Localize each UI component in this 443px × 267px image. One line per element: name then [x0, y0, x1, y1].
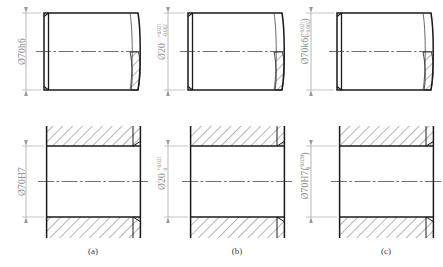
shaft-tolerance-upper-c: +0.021 [299, 20, 305, 35]
hatch-lower-c [339, 217, 434, 238]
shaft-tolerance-upper-b: +0.021 [156, 22, 162, 37]
shaft-dimension-label-b: Ø20 [157, 43, 167, 60]
svg-text:Ø70H7(: Ø70H7( [300, 167, 311, 199]
svg-text:Ø20: Ø20 [157, 173, 167, 190]
hatch-upper-c [339, 126, 434, 146]
hole-tolerance-lower-b: 0 [162, 168, 168, 171]
caption-c: (c) [381, 246, 391, 256]
hole-dimension-label-b: Ø20 [157, 173, 167, 190]
hole-dimension-label-c: Ø70H7( [300, 167, 311, 199]
shaft-tolerance-lower-b: -0.002 [162, 24, 168, 38]
hole-tolerance-upper-c: +0.030 [299, 154, 305, 169]
hole-tolerance-upper-b: +0.021 [156, 155, 162, 170]
shaft-dimension-group-c: Ø70k6( +0.021 +0.002 ) [299, 18, 311, 64]
shaft-dimension-label-a: Ø70h6 [17, 38, 27, 65]
hatch-lower-a [46, 217, 141, 238]
shaft-dimension-label-c: Ø70k6( [300, 34, 311, 64]
shaft-tolerance-lower-c: +0.002 [305, 20, 311, 35]
drawing-canvas: Ø70h6 [0, 0, 443, 267]
hatch-upper-b [190, 126, 285, 146]
caption-b: (b) [232, 246, 243, 256]
hatch-upper-a [46, 126, 141, 146]
hole-dimension-suffix-c: ) [300, 152, 311, 155]
hatch-lower-b [190, 217, 285, 238]
shaft-dimension-suffix-c: ) [300, 18, 311, 21]
technical-drawing-sheet: Ø70h6 [0, 0, 443, 267]
caption-a: (a) [88, 246, 98, 256]
hole-dimension-label-a: Ø70H7 [17, 167, 27, 196]
svg-text:Ø20: Ø20 [157, 43, 167, 60]
svg-text:Ø70k6(: Ø70k6( [300, 34, 311, 64]
hole-tolerance-lower-c: 0 [305, 167, 311, 170]
